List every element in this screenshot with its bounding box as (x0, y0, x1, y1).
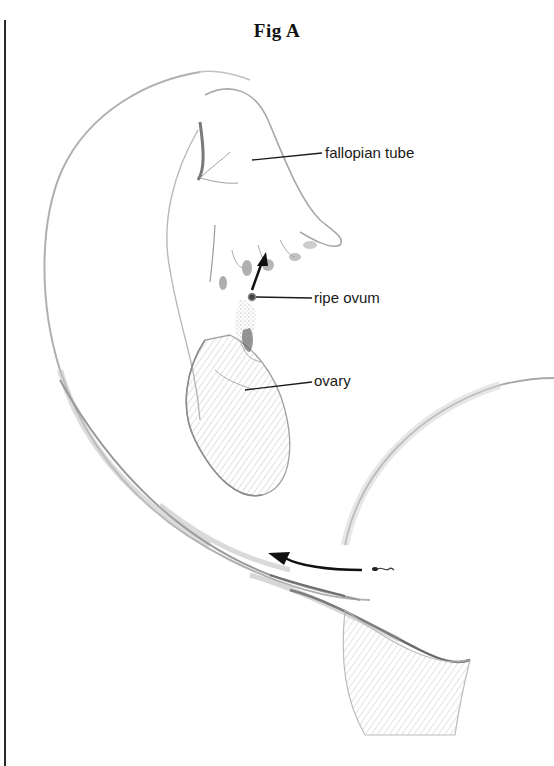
uterus-drawing (250, 378, 554, 735)
label-ripe-ovum: ripe ovum (314, 290, 380, 305)
outer-tube-outline (44, 71, 370, 600)
ovary-drawing (186, 300, 289, 496)
label-ovary: ovary (314, 373, 351, 388)
ripe-ovum-dot (249, 294, 256, 301)
leader-line-fallopian-tube (252, 153, 322, 160)
sperm-icon (372, 567, 394, 571)
anatomy-illustration (0, 0, 554, 766)
arrow-up-right-icon (252, 252, 268, 290)
label-fallopian-tube: fallopian tube (325, 145, 414, 160)
leader-line-ripe-ovum (256, 297, 312, 298)
